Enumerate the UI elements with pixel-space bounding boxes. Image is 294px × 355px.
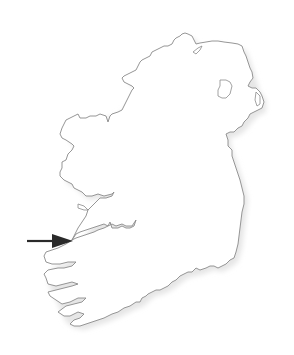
map-canvas (0, 0, 294, 355)
ireland-coastline (44, 33, 264, 326)
aran-islands (78, 204, 88, 210)
ireland-map: Outline map of Ireland (0, 0, 294, 355)
